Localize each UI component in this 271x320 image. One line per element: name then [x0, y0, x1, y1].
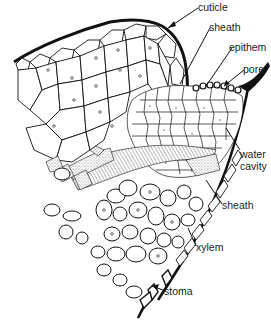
hydathode-diagram: cuticle sheath epithem pore water cavity…: [0, 0, 271, 320]
label-water: water: [240, 149, 266, 160]
label-xylem: xylem: [196, 242, 223, 253]
label-cuticle: cuticle: [198, 2, 228, 13]
spongy-mesophyll-cells: [44, 168, 203, 298]
label-pore: pore: [243, 64, 264, 75]
label-stoma: stoma: [164, 286, 193, 297]
label-epithem: epithem: [229, 42, 266, 53]
label-sheath-bottom: sheath: [222, 200, 254, 211]
label-sheath-top: sheath: [209, 22, 241, 33]
label-cavity: cavity: [240, 161, 267, 172]
